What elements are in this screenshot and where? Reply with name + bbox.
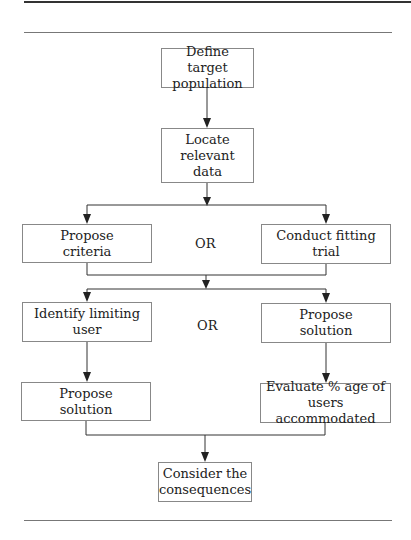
node-propose-solution-left: Propose solution xyxy=(21,382,151,421)
or-label-2: OR xyxy=(197,318,217,333)
node-define-target-population: Define target population xyxy=(161,48,254,88)
node-locate-relevant-data: Locate relevant data xyxy=(161,128,254,183)
node-consider-consequences: Consider the consequences xyxy=(158,462,252,502)
node-conduct-fitting-trial: Conduct fitting trial xyxy=(261,224,391,264)
node-propose-solution-right: Propose solution xyxy=(261,303,391,343)
bottom-divider-rule xyxy=(24,520,392,521)
or-label-1: OR xyxy=(195,236,215,251)
node-identify-limiting-user: Identify limiting user xyxy=(22,302,152,342)
node-propose-criteria: Propose criteria xyxy=(22,224,152,263)
node-evaluate-users-accommodated: Evaluate % age of users accommodated xyxy=(260,383,391,423)
